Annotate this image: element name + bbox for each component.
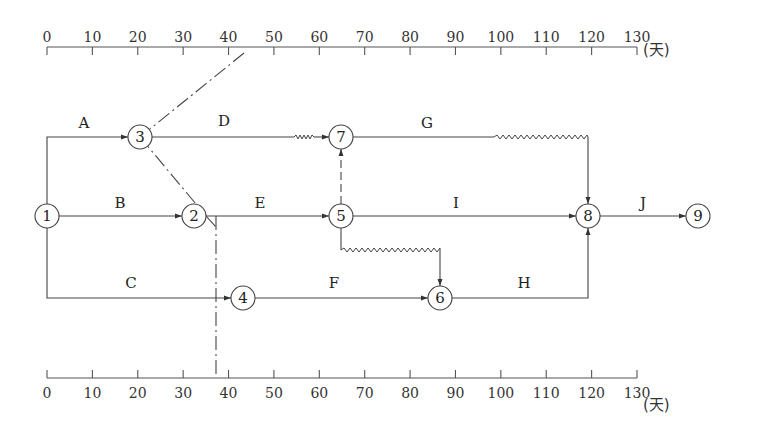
axis-tick-label: 90: [447, 385, 465, 401]
activity-label-F: F: [329, 274, 339, 292]
axis-tick-label: 0: [43, 385, 52, 401]
activity-label-B: B: [114, 194, 125, 212]
activity-C: C: [47, 228, 231, 298]
activity-I: I: [353, 194, 576, 216]
axis-tick-label: 70: [356, 385, 374, 401]
node-3: 3: [128, 125, 152, 149]
axis-tick-label: 110: [533, 385, 560, 401]
axis-tick-label: 20: [129, 29, 147, 45]
activity-label-A: A: [78, 114, 90, 132]
activity-B: B: [59, 194, 182, 216]
axis-tick-label: 110: [533, 29, 560, 45]
node-1: 1: [35, 204, 59, 228]
node-9: 9: [686, 204, 710, 228]
node-5: 5: [329, 204, 353, 228]
axis-tick-label: 40: [220, 385, 238, 401]
axis-tick-label: 50: [265, 385, 283, 401]
axis-tick-label: 30: [174, 29, 192, 45]
svg-text:1: 1: [42, 207, 52, 225]
svg-text:7: 7: [336, 128, 346, 146]
network-diagram: 0102030405060708090100110120130 (天) 0102…: [0, 0, 762, 438]
axis-tick-label: 80: [401, 29, 419, 45]
bottom-axis-unit: (天): [643, 396, 670, 414]
activity-J: J: [600, 194, 686, 216]
activity-F: F: [255, 274, 428, 298]
svg-text:8: 8: [583, 207, 593, 225]
axis-tick-label: 0: [43, 29, 52, 45]
axis-tick-label: 10: [83, 29, 101, 45]
svg-text:2: 2: [189, 207, 199, 225]
top-time-axis: 0102030405060708090100110120130 (天): [43, 29, 670, 59]
node-8: 8: [576, 204, 600, 228]
bottom-time-axis: 0102030405060708090100110120130 (天): [43, 370, 670, 414]
svg-text:5: 5: [336, 207, 346, 225]
axis-tick-label: 20: [129, 385, 147, 401]
activity-label-E: E: [255, 194, 266, 212]
activity-label-G: G: [421, 114, 433, 132]
activity-label-C: C: [125, 274, 136, 292]
axis-tick-label: 60: [310, 29, 328, 45]
activity-label-J: J: [638, 194, 646, 212]
node-4: 4: [231, 286, 255, 310]
activity-label-I: I: [453, 194, 459, 212]
svg-text:6: 6: [435, 289, 445, 307]
axis-tick-label: 100: [487, 385, 514, 401]
dummy-5-6: [341, 228, 440, 286]
activity-A: A: [47, 114, 128, 204]
activity-D: D: [152, 112, 329, 139]
axis-tick-label: 80: [401, 385, 419, 401]
axis-tick-label: 90: [447, 29, 465, 45]
activity-H: H: [452, 228, 588, 298]
axis-tick-label: 10: [83, 385, 101, 401]
axis-tick-label: 120: [578, 385, 605, 401]
axis-tick-label: 50: [265, 29, 283, 45]
axis-tick-label: 100: [487, 29, 514, 45]
bottom-axis-ticks: 0102030405060708090100110120130: [43, 370, 651, 401]
axis-tick-label: 40: [220, 29, 238, 45]
top-axis-ticks: 0102030405060708090100110120130: [43, 29, 651, 55]
activity-label-H: H: [517, 274, 530, 292]
axis-tick-label: 60: [310, 385, 328, 401]
svg-text:4: 4: [238, 289, 248, 307]
activity-E: E: [206, 194, 329, 216]
top-axis-unit: (天): [643, 41, 670, 59]
axis-tick-label: 120: [578, 29, 605, 45]
node-6: 6: [428, 286, 452, 310]
axis-tick-label: 70: [356, 29, 374, 45]
axis-tick-label: 30: [174, 385, 192, 401]
node-7: 7: [329, 125, 353, 149]
svg-text:3: 3: [135, 128, 145, 146]
activity-G: G: [353, 114, 588, 204]
svg-text:9: 9: [693, 207, 703, 225]
node-2: 2: [182, 204, 206, 228]
activity-label-D: D: [218, 112, 230, 130]
